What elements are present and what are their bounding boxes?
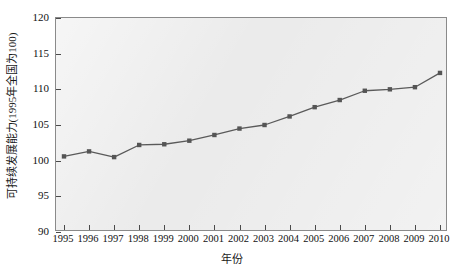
x-tick-label: 1998 — [118, 234, 158, 245]
x-tick-label: 2006 — [319, 234, 359, 245]
x-tick-mark — [214, 225, 215, 230]
data-point — [262, 123, 266, 127]
data-point — [62, 154, 66, 158]
x-tick-mark — [164, 225, 165, 230]
x-tick-label: 1999 — [143, 234, 183, 245]
x-tick-mark — [365, 225, 366, 230]
x-tick-mark — [440, 225, 441, 230]
data-point — [363, 89, 367, 93]
y-tick-mark — [56, 89, 61, 90]
data-point — [137, 143, 141, 147]
x-tick-mark — [415, 225, 416, 230]
x-tick-mark — [290, 225, 291, 230]
x-tick-label: 1995 — [43, 234, 83, 245]
x-tick-mark — [265, 225, 266, 230]
y-tick-mark — [56, 196, 61, 197]
series-markers — [62, 71, 442, 160]
x-tick-label: 1997 — [93, 234, 133, 245]
x-tick-label: 2005 — [294, 234, 334, 245]
y-axis-title: 可持续发展能力(1995年全国为100) — [2, 0, 20, 232]
x-tick-mark — [390, 225, 391, 230]
data-point — [438, 71, 442, 75]
y-tick-mark — [56, 125, 61, 126]
x-tick-label: 2009 — [394, 234, 434, 245]
data-point — [388, 87, 392, 91]
x-tick-label: 2007 — [344, 234, 384, 245]
x-tick-label: 2000 — [168, 234, 208, 245]
data-point — [338, 98, 342, 102]
x-tick-mark — [189, 225, 190, 230]
data-point — [287, 114, 291, 118]
plot-area — [55, 17, 447, 231]
x-tick-mark — [139, 225, 140, 230]
x-tick-label: 2002 — [219, 234, 259, 245]
data-point — [162, 142, 166, 146]
x-tick-label: 2010 — [419, 234, 459, 245]
data-point — [187, 138, 191, 142]
y-tick-mark — [56, 161, 61, 162]
x-tick-label: 2001 — [193, 234, 233, 245]
x-tick-label: 2008 — [369, 234, 409, 245]
x-tick-mark — [64, 225, 65, 230]
x-tick-mark — [340, 225, 341, 230]
x-tick-label: 1996 — [68, 234, 108, 245]
x-tick-label: 2004 — [269, 234, 309, 245]
x-tick-mark — [315, 225, 316, 230]
x-tick-label: 2003 — [244, 234, 284, 245]
data-point — [237, 126, 241, 130]
y-tick-mark — [56, 18, 61, 19]
series-line — [64, 73, 440, 157]
chart-figure: 可持续发展能力(1995年全国为100) 9095100105110115120… — [0, 0, 464, 276]
data-point — [413, 85, 417, 89]
data-point — [112, 155, 116, 159]
data-point — [212, 133, 216, 137]
data-point — [312, 105, 316, 109]
y-tick-mark — [56, 54, 61, 55]
line-series-svg — [56, 18, 448, 232]
x-axis-title: 年份 — [0, 250, 464, 266]
data-point — [87, 149, 91, 153]
x-tick-mark — [114, 225, 115, 230]
y-tick-mark — [56, 232, 61, 233]
x-tick-mark — [89, 225, 90, 230]
x-tick-mark — [240, 225, 241, 230]
